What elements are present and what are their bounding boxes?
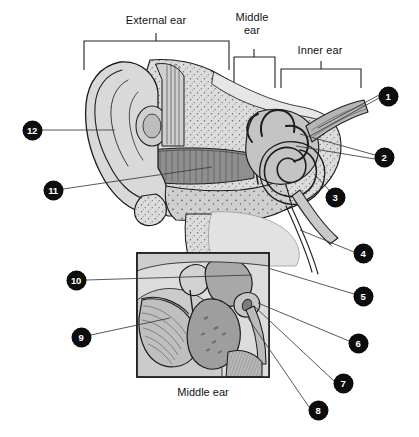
callout-marker-12[interactable]: 12 [23, 121, 42, 140]
bracket-inner-ear [281, 69, 361, 88]
callout-marker-10[interactable]: 10 [67, 271, 86, 290]
region-label-external-ear: External ear [107, 14, 205, 27]
ear-lobule [135, 194, 167, 226]
inset-malleus [180, 265, 210, 296]
region-label-middle-ear: Middle ear [225, 11, 279, 36]
callout-marker-7[interactable]: 7 [334, 374, 353, 393]
callout-marker-8[interactable]: 8 [309, 401, 328, 420]
callout-marker-4[interactable]: 4 [354, 244, 373, 263]
callout-marker-3[interactable]: 3 [326, 188, 345, 207]
callout-marker-2[interactable]: 2 [375, 148, 394, 167]
callout-marker-1[interactable]: 1 [379, 87, 398, 106]
leader-line-1 [318, 95, 379, 128]
callout-marker-6[interactable]: 6 [349, 334, 368, 353]
middle-ear-inset [137, 253, 269, 377]
ear-anatomy-illustration [0, 0, 419, 437]
leader-line-5 [268, 268, 354, 294]
concha-bowl-inner [143, 114, 161, 138]
bracket-middle-ear [234, 57, 275, 88]
ear-anatomy-diagram: External ear Middle ear Inner ear Middle… [0, 0, 419, 437]
ear-cross-section [86, 60, 368, 274]
callout-marker-9[interactable]: 9 [72, 328, 91, 347]
region-label-inner-ear: Inner ear [273, 44, 367, 57]
inset-caption-middle-ear: Middle ear [136, 386, 270, 398]
callout-marker-5[interactable]: 5 [354, 287, 373, 306]
callout-marker-11[interactable]: 11 [44, 181, 63, 200]
